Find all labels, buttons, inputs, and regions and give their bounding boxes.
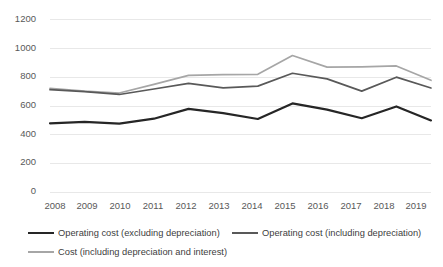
series-line-2: [50, 73, 431, 94]
legend-swatch-series-1: [28, 232, 54, 234]
x-axis-tick-2019: 2019: [396, 200, 436, 211]
legend-label-series-1: Operating cost (excluding depreciation): [58, 228, 220, 238]
line-chart: 1200 1000 800 600 400 200 0 2008 2009 20…: [0, 0, 443, 267]
legend-swatch-series-2: [232, 232, 258, 234]
legend-label-series-2: Operating cost (including depreciation): [262, 228, 421, 238]
legend-label-series-3: Cost (including depreciation and interes…: [58, 247, 227, 257]
legend-item-operating-cost-including-depreciation[interactable]: Operating cost (including depreciation): [232, 224, 421, 242]
legend-item-operating-cost-excluding-depreciation[interactable]: Operating cost (excluding depreciation): [28, 224, 220, 242]
legend-swatch-series-3: [28, 251, 54, 253]
legend-item-cost-including-depreciation-and-interest[interactable]: Cost (including depreciation and interes…: [28, 243, 227, 261]
